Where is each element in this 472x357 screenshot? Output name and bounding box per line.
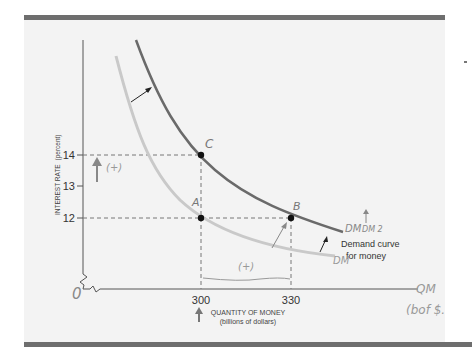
x-tick-label-300: 300 [192, 294, 210, 306]
hand-dm-lower: DM [333, 255, 350, 266]
x-axis-label: QUANTITY OF MONEY [211, 309, 286, 317]
hand-plus-y: (+) [106, 162, 122, 173]
point-b [288, 215, 294, 221]
point-a-label: A [191, 196, 200, 209]
y-tick-label-13: 13 [63, 180, 75, 192]
margin-mark [464, 61, 467, 63]
hand-plus-x: (+) [238, 261, 254, 272]
point-c-label: C [205, 137, 214, 151]
hand-dm-upper: DM [345, 223, 362, 234]
point-a [198, 215, 204, 221]
top-rule [24, 15, 445, 20]
chart-panel [24, 19, 445, 343]
hand-units: (bof $. [406, 303, 445, 317]
y-tick-label-14: 14 [63, 149, 75, 161]
hand-origin-zero: 0 [72, 285, 82, 303]
curve-label-line1: Demand curve [341, 239, 400, 249]
hand-qm: QM [416, 282, 436, 296]
hand-dm2: DM 2 [362, 225, 383, 234]
y-axis-label: INTEREST RATE (percent) [54, 134, 62, 215]
demand-for-money-figure: 14 13 12 INTEREST RATE (percent) 300 330… [0, 0, 472, 357]
y-tick-label-12: 12 [63, 212, 75, 224]
x-axis-sublabel: (billions of dollars) [220, 318, 276, 326]
point-c [198, 152, 204, 158]
curve-label-line2: for money [346, 251, 387, 261]
point-b-label: B [293, 200, 301, 213]
x-tick-label-330: 330 [282, 294, 300, 306]
bottom-rule [24, 342, 472, 347]
